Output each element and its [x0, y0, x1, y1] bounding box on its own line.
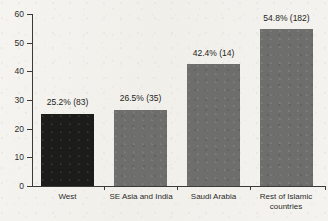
- bar-chart: 60 50 40 30 20 10 0 25.2% (83) 26.5% (35…: [0, 0, 328, 221]
- x-tick-3: [250, 186, 251, 190]
- y-tick-40: [27, 71, 32, 72]
- x-category-label-se-asia-and-india: SE Asia and India: [105, 192, 177, 202]
- x-category-label-rest-of-islamic-countries: Rest of Islamic countries: [252, 192, 320, 211]
- y-tick-label-30: 30: [0, 96, 24, 104]
- y-tick-label-40: 40: [0, 67, 24, 75]
- bar-rest-of-islamic-countries-fill: [260, 29, 313, 186]
- bar-west[interactable]: [41, 114, 94, 186]
- bar-saudi-arabia-fill: [187, 64, 240, 186]
- bar-se-asia-and-india[interactable]: [114, 110, 167, 186]
- bar-se-asia-and-india-fill: [114, 110, 167, 186]
- bar-label-west: 25.2% (83): [34, 98, 101, 107]
- bar-rest-of-islamic-countries[interactable]: [260, 29, 313, 186]
- x-tick-2: [177, 186, 178, 190]
- y-tick-label-60: 60: [0, 10, 24, 18]
- bar-label-saudi-arabia: 42.4% (14): [180, 49, 247, 58]
- y-tick-30: [27, 100, 32, 101]
- x-tick-4: [325, 186, 326, 190]
- bar-saudi-arabia[interactable]: [187, 64, 240, 186]
- y-axis-line: [32, 14, 33, 186]
- y-tick-label-50: 50: [0, 39, 24, 47]
- bar-west-fill: [41, 114, 94, 186]
- y-tick-10: [27, 157, 32, 158]
- x-tick-1: [104, 186, 105, 190]
- y-tick-50: [27, 43, 32, 44]
- y-tick-label-10: 10: [0, 153, 24, 161]
- y-tick-20: [27, 129, 32, 130]
- bar-label-rest-of-islamic-countries: 54.8% (182): [250, 14, 323, 23]
- x-axis-line: [32, 186, 326, 187]
- x-category-label-west: West: [34, 192, 101, 202]
- y-tick-label-0: 0: [0, 182, 24, 190]
- y-tick-60: [27, 14, 32, 15]
- x-category-label-saudi-arabia: Saudi Arabia: [180, 192, 247, 202]
- y-tick-0: [27, 186, 32, 187]
- y-tick-label-20: 20: [0, 125, 24, 133]
- bar-label-se-asia-and-india: 26.5% (35): [107, 94, 174, 103]
